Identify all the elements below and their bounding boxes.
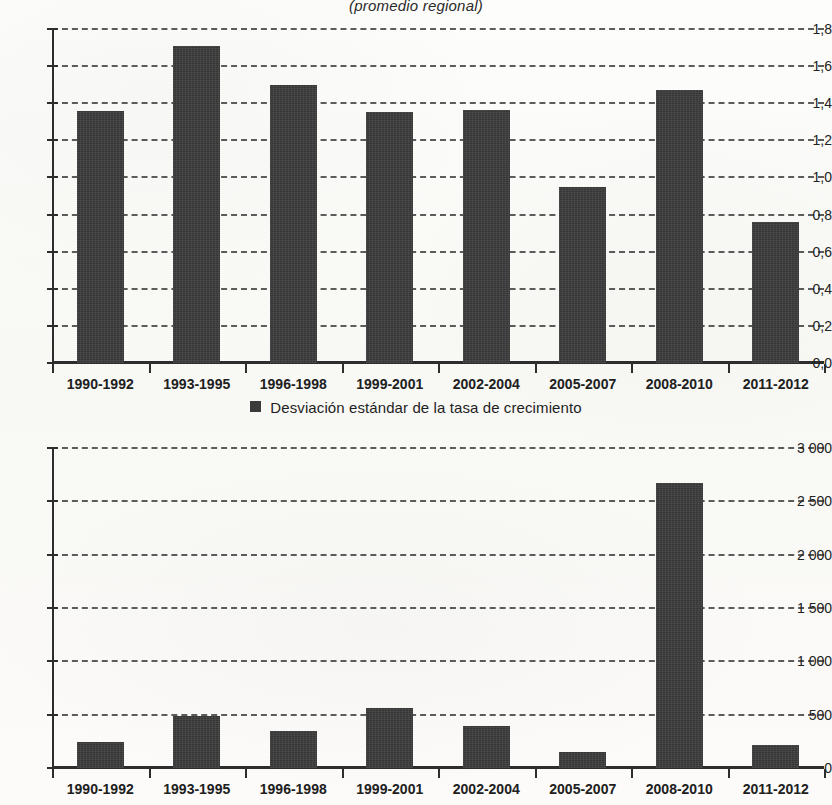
legend-label: Desviación estándar de la tasa de crecim…: [270, 399, 581, 416]
x-tick-mark: [52, 769, 54, 778]
chart-subtitle: (promedio regional): [0, 0, 832, 14]
x-tick-mark: [824, 364, 826, 373]
y-tick-label: 1,8: [792, 21, 832, 37]
gridline: [52, 554, 824, 556]
x-tick-mark: [245, 769, 247, 778]
bar: [173, 46, 220, 363]
y-tick-mark: [47, 139, 58, 141]
x-tick-mark: [245, 364, 247, 373]
y-tick-label: 1,2: [792, 132, 832, 148]
x-tick-mark: [535, 769, 537, 778]
gridline: [52, 714, 824, 716]
x-tick-mark: [438, 364, 440, 373]
chart-legend: Desviación estándar de la tasa de crecim…: [0, 398, 832, 416]
x-tick-mark: [149, 364, 151, 373]
bar: [270, 731, 317, 768]
x-tick-mark: [149, 769, 151, 778]
y-tick-label: 0,4: [792, 281, 832, 297]
x-tick-label: 1993-1995: [163, 781, 230, 797]
y-tick-label: 0,0: [792, 355, 832, 371]
gridline: [52, 500, 824, 502]
x-tick-label: 1990-1992: [67, 376, 134, 392]
gridline: [52, 288, 824, 290]
y-tick-label: 0,2: [792, 318, 832, 334]
x-tick-label: 1996-1998: [260, 376, 327, 392]
gridline: [52, 102, 824, 104]
bar: [463, 110, 510, 363]
gridline: [52, 325, 824, 327]
y-tick-label: 2 500: [792, 493, 832, 509]
square-marker-icon: [250, 401, 261, 412]
bar: [366, 708, 413, 768]
y-tick-mark: [47, 251, 58, 253]
x-tick-mark: [342, 769, 344, 778]
top-chart-panel: (promedio regional) 0,00,20,40,60,81,01,…: [0, 0, 832, 395]
y-tick-label: 0,6: [792, 244, 832, 260]
x-tick-label: 2011-2012: [743, 376, 809, 392]
top-plot-area: [52, 29, 824, 363]
gridline: [52, 447, 824, 449]
gridline: [52, 607, 824, 609]
x-tick-mark: [728, 769, 730, 778]
y-tick-label: 1,0: [792, 169, 832, 185]
x-tick-label: 2008-2010: [646, 781, 713, 797]
y-tick-mark: [47, 28, 58, 30]
bar: [270, 85, 317, 363]
gridline: [52, 660, 824, 662]
bottom-plot-area: [52, 448, 824, 768]
gridline: [52, 28, 824, 30]
y-tick-mark: [47, 325, 58, 327]
y-tick-label: 3 000: [792, 440, 832, 456]
x-tick-label: 1993-1995: [163, 376, 230, 392]
bar: [656, 483, 703, 768]
bar: [559, 187, 606, 363]
x-tick-label: 2005-2007: [549, 376, 616, 392]
y-tick-label: 0: [792, 760, 832, 776]
x-tick-mark: [438, 769, 440, 778]
x-tick-label: 1996-1998: [260, 781, 327, 797]
bar: [77, 742, 124, 768]
gridline: [52, 214, 824, 216]
gridline: [52, 65, 824, 67]
bar: [656, 90, 703, 363]
x-tick-mark: [535, 364, 537, 373]
y-tick-mark: [47, 607, 58, 609]
y-tick-mark: [47, 660, 58, 662]
x-tick-mark: [342, 364, 344, 373]
y-tick-label: 1,6: [792, 58, 832, 74]
y-tick-label: 1 500: [792, 600, 832, 616]
x-tick-mark: [631, 364, 633, 373]
y-tick-label: 1 000: [792, 653, 832, 669]
x-tick-label: 1999-2001: [356, 781, 423, 797]
y-tick-label: 0,8: [792, 207, 832, 223]
y-tick-label: 2 000: [792, 547, 832, 563]
y-tick-mark: [47, 102, 58, 104]
x-tick-mark: [631, 769, 633, 778]
y-tick-mark: [47, 176, 58, 178]
y-tick-mark: [47, 500, 58, 502]
y-tick-mark: [47, 714, 58, 716]
x-tick-label: 2008-2010: [646, 376, 713, 392]
bar: [559, 752, 606, 768]
bottom-chart-panel: 05001 0001 5002 0002 5003 000 1990-19921…: [0, 424, 832, 805]
x-tick-label: 2011-2012: [743, 781, 809, 797]
y-tick-mark: [47, 65, 58, 67]
x-tick-label: 2002-2004: [453, 781, 520, 797]
gridline: [52, 139, 824, 141]
x-tick-label: 1990-1992: [67, 781, 134, 797]
x-tick-label: 2005-2007: [549, 781, 616, 797]
x-tick-label: 1999-2001: [356, 376, 423, 392]
x-tick-mark: [824, 769, 826, 778]
y-tick-mark: [47, 288, 58, 290]
x-tick-mark: [52, 364, 54, 373]
bar: [173, 716, 220, 768]
top-y-axis-line: [52, 29, 54, 363]
y-tick-mark: [47, 447, 58, 449]
y-tick-label: 1,4: [792, 95, 832, 111]
y-tick-label: 500: [792, 707, 832, 723]
bar: [463, 726, 510, 768]
x-tick-mark: [728, 364, 730, 373]
gridline: [52, 251, 824, 253]
y-tick-mark: [47, 214, 58, 216]
x-tick-label: 2002-2004: [453, 376, 520, 392]
